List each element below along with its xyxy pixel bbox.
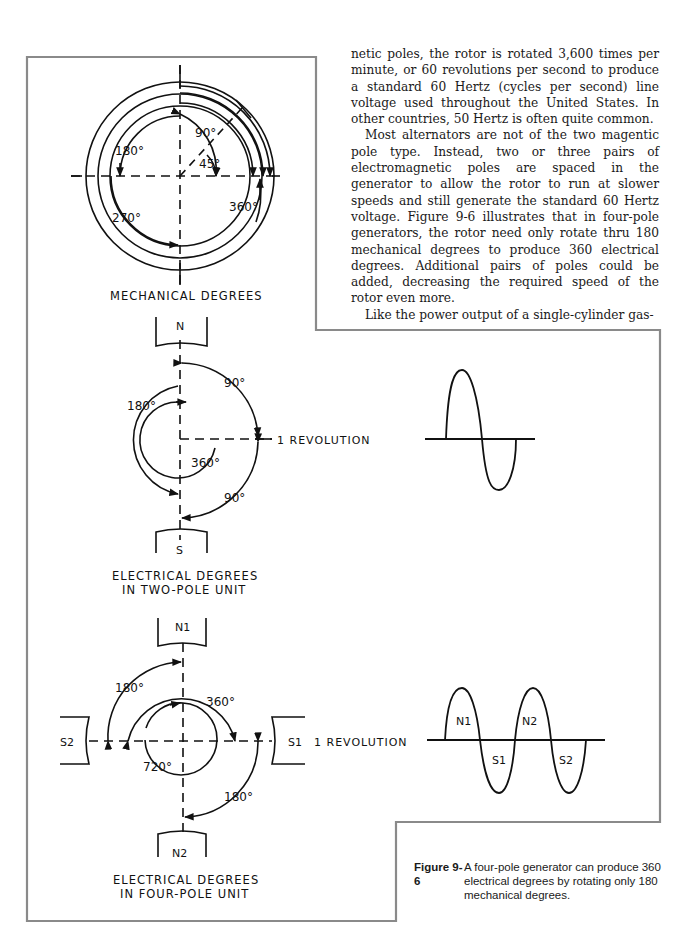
figure-diagrams: 90° 45° 180° 270° 360° MECHANICAL DEGREE…: [0, 0, 681, 952]
label-180-bottom: 180°: [224, 790, 253, 804]
label-720: 720°: [143, 760, 172, 774]
label-180: 180°: [127, 399, 156, 413]
label-90-bottom: 90°: [224, 491, 245, 505]
label-90-top: 90°: [224, 376, 245, 390]
pole-n: N: [176, 320, 184, 333]
two-pole-labels: N S 90° 180° 360° 90° 1 REVOLUTION ELECT…: [112, 320, 371, 597]
pole-s: S: [176, 544, 183, 557]
four-pole-waveform: [427, 688, 605, 793]
two-pole-title-line2: IN TWO-POLE UNIT: [122, 583, 246, 597]
mechanical-degree-labels: 90° 45° 180° 270° 360° MECHANICAL DEGREE…: [110, 126, 263, 303]
four-pole-title-line2: IN FOUR-POLE UNIT: [120, 887, 249, 901]
revolution-label: 1 REVOLUTION: [314, 736, 408, 749]
mechanical-degrees-title: MECHANICAL DEGREES: [110, 289, 263, 303]
label-360: 360°: [206, 695, 235, 709]
label-360: 360°: [229, 200, 258, 214]
four-pole-diagram: [60, 618, 305, 857]
lobe-s2: S2: [559, 754, 573, 767]
pole-n1: N1: [175, 621, 190, 634]
label-180: 180°: [115, 144, 144, 158]
label-45: 45°: [199, 157, 220, 171]
two-pole-diagram: [133, 317, 272, 553]
pole-s1: S1: [288, 736, 302, 749]
pole-n2: N2: [172, 847, 187, 860]
lobe-n1: N1: [456, 715, 471, 728]
pole-s2: S2: [60, 736, 74, 749]
label-360: 360°: [191, 456, 220, 470]
four-pole-title-line1: ELECTRICAL DEGREES: [113, 873, 259, 887]
figure-caption-text: A four-pole generator can produce 360 el…: [464, 860, 664, 902]
label-180-top: 180°: [115, 681, 144, 695]
two-pole-title-line1: ELECTRICAL DEGREES: [112, 569, 258, 583]
label-90: 90°: [195, 126, 216, 140]
lobe-s1: S1: [492, 754, 506, 767]
figure-caption: Figure 9-6 A four-pole generator can pro…: [414, 860, 664, 902]
label-270: 270°: [112, 211, 141, 225]
figure-label: Figure 9-6: [414, 860, 464, 902]
lobe-n2: N2: [522, 715, 537, 728]
mechanical-degrees-diagram: [71, 65, 280, 285]
revolution-label: 1 REVOLUTION: [277, 434, 371, 447]
four-pole-labels: N1 N2 S2 S1 180° 360° 720° 180° 1 REVOLU…: [60, 621, 408, 901]
two-pole-waveform: [425, 370, 535, 490]
